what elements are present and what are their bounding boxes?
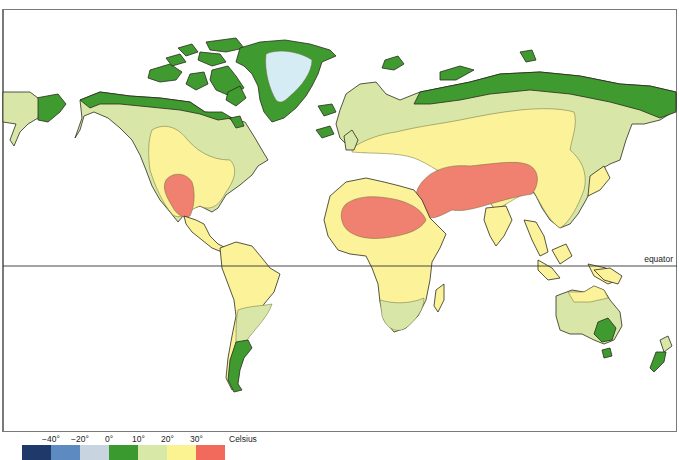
legend-tick: 30° xyxy=(190,434,203,444)
oceania xyxy=(556,268,672,372)
legend-tick: 0° xyxy=(105,434,113,444)
legend-swatch xyxy=(80,445,109,460)
legend-tick: 20° xyxy=(161,434,174,444)
legend-swatch xyxy=(51,445,80,460)
south-america xyxy=(220,242,280,392)
legend-swatch xyxy=(138,445,167,460)
legend-swatch xyxy=(196,445,225,460)
greenland xyxy=(236,40,336,122)
legend-tick: 10° xyxy=(132,434,145,444)
legend-tick: −20° xyxy=(71,434,89,444)
north-america xyxy=(36,92,268,252)
legend-unit: Celsius xyxy=(229,434,257,444)
legend-tick: −40° xyxy=(42,434,60,444)
equator-label: equator xyxy=(644,254,673,264)
world-map xyxy=(0,0,679,460)
legend-swatches xyxy=(22,445,225,460)
chukotka-west xyxy=(3,92,38,146)
legend-swatch xyxy=(22,445,51,460)
legend-swatch xyxy=(167,445,196,460)
legend-swatch xyxy=(109,445,138,460)
